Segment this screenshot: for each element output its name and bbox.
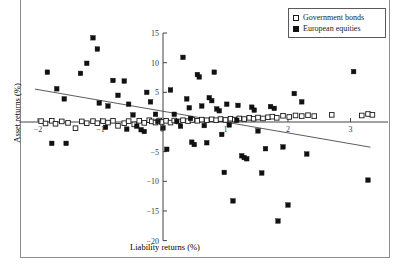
y-tick-label: 15: [151, 29, 159, 38]
chart-legend: Government bonds European equities: [288, 8, 386, 38]
data-point-european-equity: [164, 147, 169, 152]
data-point-european-equity: [142, 129, 147, 134]
filled-square-marker-icon: [293, 26, 299, 32]
data-point-government-bond: [306, 113, 311, 118]
data-point-european-equity: [91, 35, 96, 40]
y-tick-label: −15: [146, 207, 159, 216]
data-point-government-bond: [251, 116, 256, 121]
data-point-government-bond: [242, 117, 247, 122]
data-point-government-bond: [287, 115, 292, 120]
data-point-government-bond: [270, 114, 275, 119]
y-axis-title-wrap: Asset returns (%): [6, 65, 24, 161]
data-point-european-equity: [131, 113, 136, 118]
data-point-government-bond: [223, 118, 228, 123]
data-point-european-equity: [124, 127, 129, 132]
data-point-european-equity: [236, 103, 241, 108]
data-point-european-equity: [299, 100, 304, 105]
data-point-european-equity: [351, 69, 356, 74]
x-axis-title: Liability returns (%): [130, 242, 200, 252]
y-axis-title: Asset returns (%): [12, 83, 22, 142]
data-point-government-bond: [59, 119, 64, 124]
x-tick-label: −1: [96, 125, 105, 134]
data-point-european-equity: [252, 108, 257, 113]
data-point-european-equity: [78, 71, 83, 76]
data-point-european-equity: [84, 61, 89, 66]
scatter-plot-canvas: 151050−5−10−15−20−2−10123: [0, 0, 399, 269]
data-point-government-bond: [39, 119, 44, 124]
data-point-european-equity: [97, 101, 102, 106]
data-point-european-equity: [111, 78, 116, 83]
data-point-european-equity: [122, 79, 127, 84]
data-point-government-bond: [111, 119, 116, 124]
data-point-european-equity: [148, 100, 153, 105]
data-point-european-equity: [276, 219, 281, 224]
data-point-european-equity: [281, 145, 286, 150]
data-point-european-equity: [244, 156, 249, 161]
y-tick-label: 0: [155, 118, 159, 127]
data-point-european-equity: [197, 75, 202, 80]
data-point-government-bond: [281, 113, 286, 118]
data-point-government-bond: [142, 121, 147, 126]
data-point-government-bond: [312, 114, 317, 119]
data-point-government-bond: [266, 115, 271, 120]
data-point-european-equity: [231, 199, 236, 204]
data-point-european-equity: [217, 108, 222, 113]
data-point-european-equity: [256, 129, 261, 134]
data-point-european-equity: [62, 97, 67, 102]
data-point-government-bond: [256, 115, 261, 120]
data-point-european-equity: [212, 70, 217, 75]
data-point-european-equity: [187, 105, 192, 110]
x-axis-title-wrap: Liability returns (%): [70, 236, 260, 254]
data-point-government-bond: [218, 117, 223, 122]
data-point-european-equity: [263, 146, 268, 151]
y-tick-label: −5: [150, 148, 159, 157]
data-point-european-equity: [64, 141, 69, 146]
data-point-government-bond: [214, 118, 219, 123]
data-point-european-equity: [199, 104, 204, 109]
x-tick-label: 2: [286, 125, 290, 134]
legend-label-government-bonds: Government bonds: [303, 12, 364, 23]
data-point-government-bond: [228, 116, 233, 121]
data-point-european-equity: [184, 97, 189, 102]
data-point-government-bond: [43, 121, 48, 126]
chart-page: 151050−5−10−15−20−2−10123 Government bon…: [0, 0, 399, 269]
data-point-government-bond: [293, 113, 298, 118]
data-point-european-equity: [116, 93, 121, 98]
data-point-government-bond: [181, 118, 186, 123]
data-point-government-bond: [116, 124, 121, 129]
data-point-government-bond: [53, 121, 58, 126]
data-point-european-equity: [174, 119, 179, 124]
x-tick-label: −2: [34, 125, 43, 134]
data-point-government-bond: [122, 121, 127, 126]
data-point-european-equity: [234, 118, 239, 123]
data-point-european-equity: [134, 124, 139, 129]
y-tick-label: 10: [151, 59, 159, 68]
data-point-government-bond: [329, 113, 334, 118]
data-point-european-equity: [202, 123, 207, 128]
data-point-government-bond: [91, 119, 96, 124]
data-point-european-equity: [292, 91, 297, 96]
data-point-european-equity: [49, 141, 54, 146]
legend-label-european-equities: European equities: [303, 23, 361, 34]
data-point-government-bond: [73, 126, 78, 131]
data-point-government-bond: [195, 119, 200, 124]
data-point-european-equity: [172, 112, 177, 117]
data-point-european-equity: [181, 55, 186, 60]
data-point-government-bond: [274, 116, 279, 121]
data-point-government-bond: [164, 119, 169, 124]
data-point-european-equity: [224, 102, 229, 107]
data-point-government-bond: [261, 116, 266, 121]
data-point-government-bond: [101, 119, 106, 124]
data-point-european-equity: [227, 123, 232, 128]
tick-labels-group: 151050−5−10−15−20−2−10123: [34, 29, 353, 246]
data-point-european-equity: [106, 104, 111, 109]
data-point-government-bond: [209, 117, 214, 122]
data-point-european-equity: [209, 98, 214, 103]
data-point-european-equity: [286, 203, 291, 208]
data-point-european-equity: [222, 170, 227, 175]
data-point-european-equity: [304, 152, 309, 157]
data-point-government-bond: [370, 113, 375, 118]
data-point-european-equity: [366, 178, 371, 183]
data-point-european-equity: [54, 86, 59, 91]
data-point-european-equity: [153, 112, 158, 117]
